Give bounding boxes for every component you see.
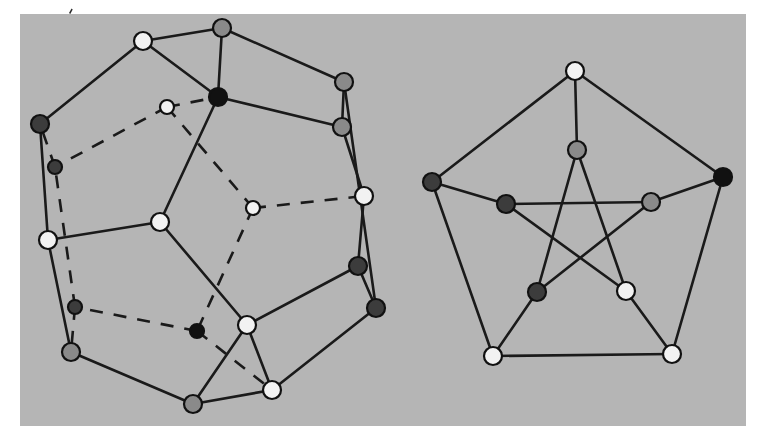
graph-vertex-white[interactable] — [134, 32, 152, 50]
graph-vertex-gray[interactable] — [184, 395, 202, 413]
graph-figure — [0, 0, 758, 444]
graph-vertex-black[interactable] — [209, 88, 227, 106]
graph-vertex-dark[interactable] — [48, 160, 62, 174]
graph-vertex-black[interactable] — [714, 168, 732, 186]
graph-vertex-dark[interactable] — [31, 115, 49, 133]
graph-vertex-black[interactable] — [190, 324, 204, 338]
graph-vertex-gray[interactable] — [568, 141, 586, 159]
graph-vertex-white[interactable] — [566, 62, 584, 80]
graph-vertex-white[interactable] — [663, 345, 681, 363]
graph-vertex-white[interactable] — [617, 282, 635, 300]
graph-vertex-dark[interactable] — [528, 283, 546, 301]
graph-vertex-gray[interactable] — [335, 73, 353, 91]
graph-vertex-gray[interactable] — [642, 193, 660, 211]
graph-vertex-white[interactable] — [263, 381, 281, 399]
graph-vertex-white[interactable] — [160, 100, 174, 114]
graph-vertex-dark[interactable] — [349, 257, 367, 275]
graph-vertex-white[interactable] — [246, 201, 260, 215]
graph-vertex-gray[interactable] — [62, 343, 80, 361]
graph-vertex-dark[interactable] — [367, 299, 385, 317]
graph-vertex-dark[interactable] — [497, 195, 515, 213]
graph-vertex-white[interactable] — [484, 347, 502, 365]
figure-root — [0, 0, 758, 444]
diagram-panel — [20, 14, 746, 426]
gray-panel-layer — [20, 14, 746, 426]
graph-vertex-white[interactable] — [39, 231, 57, 249]
graph-vertex-gray[interactable] — [213, 19, 231, 37]
graph-vertex-gray[interactable] — [333, 118, 351, 136]
graph-vertex-white[interactable] — [151, 213, 169, 231]
graph-vertex-dark[interactable] — [68, 300, 82, 314]
graph-vertex-dark[interactable] — [423, 173, 441, 191]
graph-vertex-white[interactable] — [355, 187, 373, 205]
graph-vertex-white[interactable] — [238, 316, 256, 334]
